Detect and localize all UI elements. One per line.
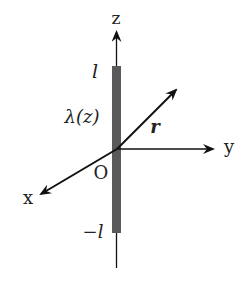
rod-top-label: l (92, 60, 98, 82)
x-axis-label: x (23, 187, 33, 208)
charge-density-label: λ(z) (64, 106, 100, 127)
origin-label: O (94, 162, 109, 183)
z-axis-label: z (112, 8, 121, 28)
r-vector-label: r (150, 116, 161, 137)
rod-bottom-label: −l (83, 221, 104, 242)
y-axis-label: y (223, 136, 235, 157)
r-vector-arrow (117, 90, 176, 149)
line-charge-diagram: z y x O l λ(z) −l r (0, 0, 250, 281)
